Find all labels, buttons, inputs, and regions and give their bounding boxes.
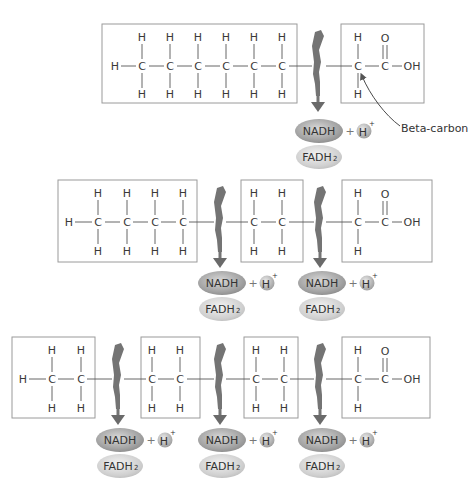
products-1: NADH + H + FADH 2 — [96, 428, 176, 478]
proton-label: H — [359, 126, 367, 139]
products-2: NADH + H + FADH 2 — [198, 428, 278, 478]
fadh2-subscript: 2 — [336, 464, 340, 472]
plus-sign: + — [348, 277, 357, 290]
atom-o: O — [381, 32, 390, 45]
atom-c: C — [138, 60, 146, 73]
atom-h: H — [250, 31, 258, 44]
proton-label: H — [262, 435, 270, 448]
atom-h: H — [166, 31, 174, 44]
atom-h: H — [354, 31, 362, 44]
atom-c: C — [151, 216, 159, 229]
products-3: NADH + H + FADH 2 — [298, 428, 378, 478]
fadh2-subscript: 2 — [333, 155, 337, 163]
atom-h: H — [278, 31, 286, 44]
atom-c: C — [354, 373, 362, 386]
nadh-label: NADH — [303, 125, 336, 138]
atom-h: H — [252, 402, 260, 415]
atom-h: H — [354, 344, 362, 357]
proton-label: H — [362, 278, 370, 291]
atom-h: H — [166, 88, 174, 101]
proton-label: H — [362, 435, 370, 448]
nadh-label: NADH — [104, 434, 137, 447]
atom-h: H — [123, 187, 131, 200]
products-2: NADH + H + FADH 2 — [298, 271, 378, 321]
beta-carbon-label: Beta-carbon — [401, 122, 468, 135]
atom-h: H — [250, 187, 258, 200]
plus-sign: + — [146, 434, 155, 447]
row-2: H C C C C C C C C OH O H H H H H H H H H… — [58, 180, 432, 321]
atom-h: H — [222, 31, 230, 44]
atom-o: O — [381, 345, 390, 358]
atom-c: C — [354, 216, 362, 229]
atom-h: H — [354, 402, 362, 415]
atom-c: C — [166, 60, 174, 73]
atom-c: C — [280, 373, 288, 386]
fadh2-subscript: 2 — [236, 307, 240, 315]
plus-sign: + — [348, 434, 357, 447]
beta-carbon-pointer — [362, 76, 400, 126]
carboxyl-carbon-atom: C — [381, 60, 389, 73]
atom-c: C — [194, 60, 202, 73]
hydroxyl-group: OH — [404, 216, 421, 229]
atom-h: H — [123, 245, 131, 258]
atom-h: H — [151, 187, 159, 200]
nadh-label: NADH — [306, 277, 339, 290]
beta-oxidation-diagram: H C C C C C C C C OH O H H H H H H H H H… — [0, 0, 476, 497]
atom-h: H — [194, 31, 202, 44]
atom-h: H — [179, 245, 187, 258]
fadh2-label: FADH — [205, 303, 235, 316]
atom-h: H — [77, 402, 85, 415]
atom-h: H — [278, 187, 286, 200]
atom-c: C — [48, 373, 56, 386]
beta-carbon-atom: C — [354, 60, 362, 73]
proton-charge: + — [272, 272, 278, 280]
atom-h: H — [138, 31, 146, 44]
cleavage-bolt-icon — [311, 30, 325, 112]
atom-c: C — [123, 216, 131, 229]
atom-h: H — [194, 88, 202, 101]
atom-h: H — [151, 245, 159, 258]
fadh2-label: FADH — [205, 460, 235, 473]
atom-h: H — [176, 344, 184, 357]
plus-sign: + — [248, 277, 257, 290]
carboxyl-carbon-atom: C — [381, 216, 389, 229]
atom-c: C — [250, 60, 258, 73]
atom-h: H — [250, 88, 258, 101]
nadh-label: NADH — [206, 434, 239, 447]
products-1: NADH + H + FADH 2 — [198, 271, 278, 321]
products: NADH + H + FADH 2 — [295, 119, 375, 169]
proton-label: H — [160, 435, 168, 448]
atom-c: C — [148, 373, 156, 386]
atom-h: H — [65, 216, 73, 229]
atom-h: H — [278, 245, 286, 258]
fadh2-label: FADH — [302, 151, 332, 164]
atom-h: H — [19, 373, 27, 386]
atom-h: H — [354, 245, 362, 258]
atom-h: H — [148, 402, 156, 415]
atom-h: H — [354, 187, 362, 200]
atom-h: H — [252, 344, 260, 357]
row-3: H C C C C C C C C OH O H H H H H H H H H… — [12, 337, 430, 478]
cleavage-bolt-icon — [313, 186, 327, 268]
atom-h: H — [111, 60, 119, 73]
fadh2-subscript: 2 — [134, 464, 138, 472]
atom-c: C — [94, 216, 102, 229]
proton-label: H — [262, 278, 270, 291]
atom-h: H — [280, 344, 288, 357]
fadh2-label: FADH — [305, 303, 335, 316]
atom-h: H — [48, 402, 56, 415]
atom-c: C — [278, 216, 286, 229]
atom-c: C — [77, 373, 85, 386]
proton-charge: + — [372, 429, 378, 437]
atom-c: C — [176, 373, 184, 386]
fadh2-subscript: 2 — [336, 307, 340, 315]
cleavage-bolt-icon — [313, 343, 327, 425]
atom-h: H — [250, 245, 258, 258]
atom-c: C — [252, 373, 260, 386]
atom-h: H — [176, 402, 184, 415]
plus-sign: + — [345, 125, 354, 138]
atom-c: C — [278, 60, 286, 73]
atom-h: H — [138, 88, 146, 101]
atom-h: H — [278, 88, 286, 101]
bottom-hydrogens: H H H H H H H — [138, 88, 362, 101]
